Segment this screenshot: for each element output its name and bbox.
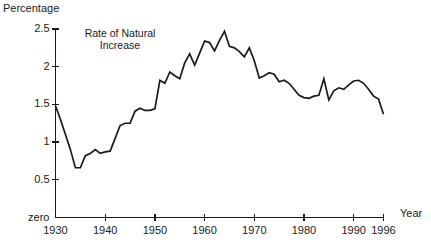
- data-line-rate-of-natural-increase: [56, 31, 384, 167]
- y-axis-title: Percentage: [3, 2, 59, 14]
- chart-plot-area: [0, 0, 431, 248]
- x-axis-tick-label: 1970: [232, 224, 276, 236]
- x-axis-tick-label: 1980: [282, 224, 326, 236]
- y-axis-tick-label: 1: [16, 135, 50, 147]
- chart-figure: Percentage Year Rate of Natural Increase…: [0, 0, 431, 248]
- axis-lines: [56, 29, 385, 218]
- x-axis-title: Year: [400, 207, 422, 219]
- x-axis-tick-label: 1950: [133, 224, 177, 236]
- x-axis-tick-label: 1940: [83, 224, 127, 236]
- x-axis-tick-label: 1960: [183, 224, 227, 236]
- x-axis-tick-label: 1996: [362, 224, 406, 236]
- y-axis-tick-label: zero: [16, 211, 50, 223]
- y-axis-tick-label: 2.5: [16, 22, 50, 34]
- series-annotation-label: Rate of Natural Increase: [78, 28, 162, 52]
- x-axis-tick-label: 1930: [34, 224, 78, 236]
- y-axis-tick-label: 2: [16, 60, 50, 72]
- y-axis-tick-label: 1.5: [16, 97, 50, 109]
- y-axis-tick-label: 0.5: [16, 173, 50, 185]
